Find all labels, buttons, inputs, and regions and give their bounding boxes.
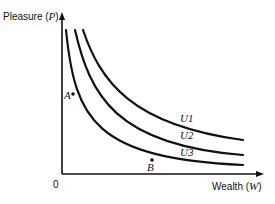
y-axis-label: Pleasure (P) bbox=[3, 10, 59, 22]
x-axis-label: Wealth (W) bbox=[212, 180, 262, 192]
point-a-label: A bbox=[63, 89, 71, 101]
curve-label-u1: U1 bbox=[180, 112, 193, 124]
point-b-label: B bbox=[147, 161, 154, 173]
curve-u3 bbox=[66, 30, 243, 165]
x-axis-arrow-icon bbox=[256, 171, 264, 177]
indifference-curve-diagram: Pleasure (P) Wealth (W) 0 U1 U2 U3 A B bbox=[0, 0, 275, 204]
curve-label-u3: U3 bbox=[180, 146, 194, 158]
point-a-marker bbox=[71, 92, 75, 96]
y-axis-arrow-icon bbox=[59, 12, 65, 20]
curve-u1 bbox=[83, 30, 243, 140]
curve-label-u2: U2 bbox=[180, 129, 194, 141]
origin-label: 0 bbox=[53, 179, 59, 190]
